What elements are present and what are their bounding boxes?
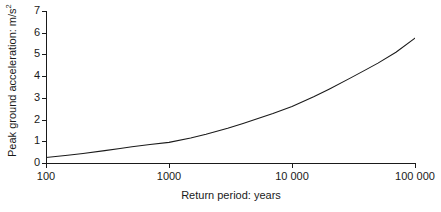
y-axis-spine (46, 11, 47, 164)
y-tick-label-wrapper: 0 (0, 157, 40, 168)
x-axis-label: Return period: years (46, 189, 416, 201)
x-tick-mark (415, 164, 416, 168)
y-axis-label-wrapper: Peak ground acceleration: m/s2 (5, 5, 19, 157)
x-tick-mark (292, 164, 293, 168)
y-tick-mark (42, 98, 46, 99)
x-tick-label: 100 000 (395, 170, 435, 182)
x-tick-label: 10 000 (275, 170, 309, 182)
y-tick-mark (42, 141, 46, 142)
x-tick-label: 1000 (157, 170, 181, 182)
plot-area (46, 11, 415, 163)
x-axis-spine (46, 163, 416, 164)
y-axis-label-exponent: 2 (4, 4, 13, 8)
x-tick-label: 100 (37, 170, 55, 182)
y-tick-label: 0 (4, 157, 40, 168)
y-tick-mark (42, 54, 46, 55)
data-line-svg (46, 11, 415, 163)
y-tick-mark (42, 120, 46, 121)
chart-figure: 01234567 100100010 000100 000 Return per… (0, 0, 441, 212)
x-tick-mark (46, 164, 47, 168)
data-series-line (46, 38, 415, 157)
y-axis-label-text: Peak ground acceleration: m/s (6, 8, 18, 157)
y-axis-label: Peak ground acceleration: m/s2 (5, 5, 19, 157)
y-tick-mark (42, 76, 46, 77)
x-tick-mark (169, 164, 170, 168)
y-tick-mark (42, 33, 46, 34)
y-tick-mark (42, 11, 46, 12)
